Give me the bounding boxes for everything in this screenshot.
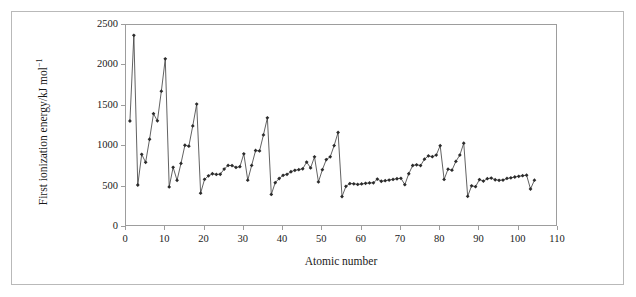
y-axis-tick-label: 0: [78, 220, 118, 231]
x-axis-tick-mark: [125, 226, 126, 230]
x-axis-tick-mark: [439, 226, 440, 230]
x-axis-tick-label: 0: [105, 233, 145, 244]
y-axis-tick-label: 1500: [78, 99, 118, 110]
x-axis-tick-mark: [400, 226, 401, 230]
y-axis-tick-mark: [121, 64, 125, 65]
x-axis-tick-mark: [243, 226, 244, 230]
x-axis-tick-label: 40: [262, 233, 302, 244]
y-axis-tick-label: 2000: [78, 58, 118, 69]
y-axis-tick-mark: [121, 24, 125, 25]
y-axis-tick-mark: [121, 145, 125, 146]
axis-tick-group: 0500100015002000250001020304050607080901…: [0, 0, 636, 297]
x-axis-tick-label: 50: [301, 233, 341, 244]
x-axis-tick-mark: [518, 226, 519, 230]
x-axis-tick-mark: [361, 226, 362, 230]
x-axis-tick-mark: [282, 226, 283, 230]
x-axis-title: Atomic number: [241, 255, 441, 267]
figure: 0500100015002000250001020304050607080901…: [0, 0, 636, 297]
x-axis-tick-label: 20: [184, 233, 224, 244]
x-axis-tick-mark: [478, 226, 479, 230]
y-axis-tick-mark: [121, 105, 125, 106]
x-axis-tick-label: 70: [380, 233, 420, 244]
x-axis-tick-label: 10: [144, 233, 184, 244]
y-axis-tick-label: 1000: [78, 139, 118, 150]
y-axis-tick-label: 500: [78, 180, 118, 191]
x-axis-tick-label: 90: [458, 233, 498, 244]
y-axis-tick-label: 2500: [78, 18, 118, 29]
x-axis-tick-mark: [557, 226, 558, 230]
x-axis-tick-mark: [321, 226, 322, 230]
x-axis-tick-label: 60: [341, 233, 381, 244]
x-axis-tick-label: 30: [223, 233, 263, 244]
x-axis-tick-mark: [164, 226, 165, 230]
x-axis-tick-label: 100: [498, 233, 538, 244]
x-axis-tick-mark: [204, 226, 205, 230]
x-axis-tick-label: 80: [419, 233, 459, 244]
x-axis-tick-label: 110: [537, 233, 577, 244]
y-axis-title: First ionization energy/kJ mol−1: [35, 32, 49, 232]
y-axis-tick-mark: [121, 186, 125, 187]
